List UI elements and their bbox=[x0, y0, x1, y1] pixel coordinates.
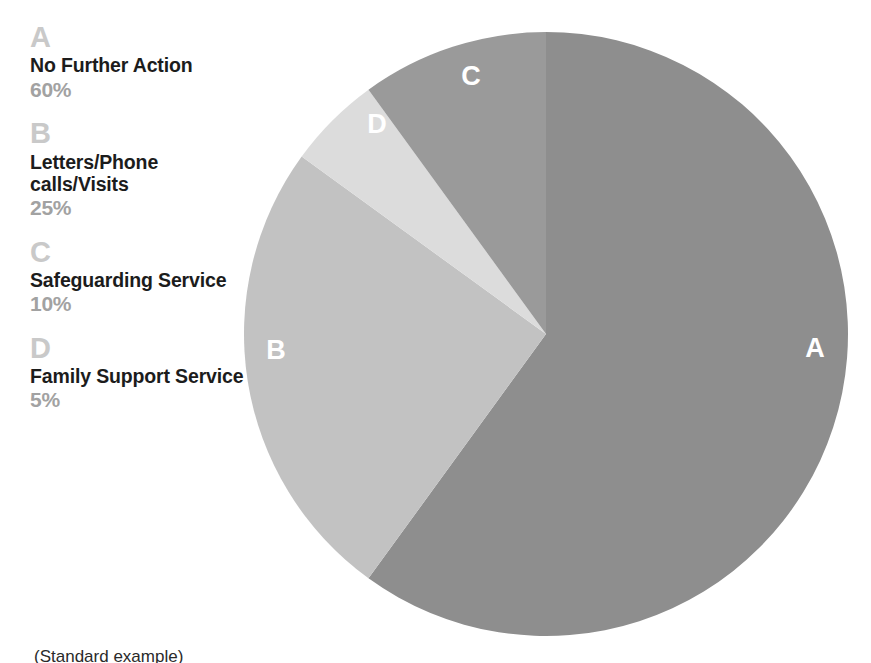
legend-item-a[interactable]: A No Further Action 60% bbox=[30, 22, 245, 101]
legend-percent-a: 60% bbox=[30, 78, 245, 102]
pie-slice-label-a: A bbox=[805, 333, 825, 363]
legend-letter-d: D bbox=[30, 333, 245, 363]
legend-label-a: No Further Action bbox=[30, 54, 245, 76]
pie-slice-a[interactable] bbox=[368, 32, 848, 636]
legend-letter-c: C bbox=[30, 237, 245, 267]
pie-slice-group bbox=[244, 32, 848, 636]
legend-label-d: Family Support Service bbox=[30, 365, 245, 387]
pie-slice-label-b: B bbox=[266, 335, 286, 365]
legend-letter-b: B bbox=[30, 118, 245, 148]
legend-label-b: Letters/Phone calls/Visits bbox=[30, 151, 245, 195]
pie-slice-label-c: C bbox=[461, 61, 481, 91]
legend-item-c[interactable]: C Safeguarding Service 10% bbox=[30, 237, 245, 316]
legend-item-d[interactable]: D Family Support Service 5% bbox=[30, 333, 245, 412]
figure-caption: (Standard example) bbox=[34, 648, 183, 663]
chart-legend: A No Further Action 60% B Letters/Phone … bbox=[30, 22, 245, 429]
legend-letter-a: A bbox=[30, 22, 245, 52]
legend-percent-b: 25% bbox=[30, 196, 245, 220]
pie-slice-d[interactable] bbox=[302, 90, 546, 334]
pie-slice-c[interactable] bbox=[368, 32, 546, 334]
pie-slice-label-d: D bbox=[367, 109, 387, 139]
pie-slice-b[interactable] bbox=[244, 156, 546, 578]
legend-percent-c: 10% bbox=[30, 292, 245, 316]
pie-slice-label-group: ABDC bbox=[266, 61, 825, 365]
pie-chart-figure: A No Further Action 60% B Letters/Phone … bbox=[0, 0, 871, 663]
legend-label-c: Safeguarding Service bbox=[30, 269, 245, 291]
legend-percent-d: 5% bbox=[30, 388, 245, 412]
legend-item-b[interactable]: B Letters/Phone calls/Visits 25% bbox=[30, 118, 245, 219]
